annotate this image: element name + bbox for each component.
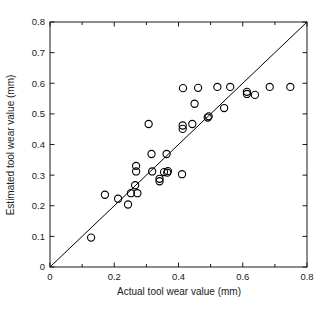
y-tick-label: 0.8 [32, 16, 45, 27]
y-tick-label: 0.6 [32, 78, 45, 89]
x-tick-label: 0.2 [108, 271, 121, 282]
y-tick-label: 0.3 [32, 170, 45, 181]
figure-container: 00.20.40.60.8 00.10.20.30.40.50.60.70.8 … [0, 0, 332, 312]
y-axis-title: Estimated tool wear value (mm) [5, 75, 16, 216]
y-tick-label: 0.1 [32, 231, 45, 242]
y-tick-label: 0.7 [32, 47, 45, 58]
y-tick-label-group: 00.10.20.30.40.50.60.70.8 [32, 16, 45, 272]
x-tick-label: 0.4 [172, 271, 185, 282]
y-tick-label: 0 [40, 261, 45, 272]
x-tick-label: 0.6 [236, 271, 249, 282]
x-axis-title: Actual tool wear value (mm) [117, 286, 241, 297]
y-tick-label: 0.4 [32, 139, 45, 150]
y-tick-label: 0.2 [32, 200, 45, 211]
scatter-plot: 00.20.40.60.8 00.10.20.30.40.50.60.70.8 … [0, 0, 332, 312]
x-tick-label: 0.8 [300, 271, 313, 282]
x-tick-label: 0 [47, 271, 52, 282]
y-tick-label: 0.5 [32, 108, 45, 119]
